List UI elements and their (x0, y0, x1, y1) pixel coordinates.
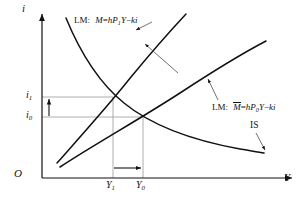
curve-label-lm-base-price: LM: M=hP0Y−ki (212, 103, 275, 113)
tick-label-Y1: Y1 (106, 180, 115, 192)
lm1-leader-upper (136, 22, 152, 30)
tick-label-i1-sub: 1 (29, 94, 32, 101)
tick-label-i1: i1 (26, 90, 32, 102)
tick-label-i0: i0 (26, 110, 32, 122)
guide-lines (42, 97, 143, 178)
curve-label-is: IS (250, 121, 258, 131)
curve-label-lm-high-price: LM: M=hP1Y−ki (74, 16, 137, 26)
tick-label-Y0: Y0 (136, 180, 145, 192)
lm0-leader (208, 79, 218, 100)
axis-label-Y: Y (284, 172, 290, 183)
lm1-eq-M: M (95, 15, 103, 25)
is-leader (256, 133, 265, 150)
lm0-separator: : (226, 102, 229, 112)
is-lm-figure: i Y O i1 i0 Y1 Y0 LM: M=hP1Y−ki LM: M=hP… (0, 0, 304, 206)
origin-label: O (14, 168, 22, 179)
tick-label-Y1-sub: 1 (112, 184, 115, 191)
annotation-arrows (49, 99, 141, 168)
leader-lines (136, 22, 265, 150)
lm0-name: LM (212, 102, 226, 112)
tick-label-Y0-sub: 0 (142, 184, 145, 191)
axes (42, 14, 292, 178)
axis-label-i: i (22, 3, 25, 14)
lm1-name: LM (74, 15, 88, 25)
lm1-leader-lower (145, 44, 178, 73)
lm1-eq-i: i (135, 15, 138, 25)
lm0-eq-i: i (273, 102, 276, 112)
tick-label-i0-sub: 0 (29, 114, 32, 121)
lm-curve-high-price (57, 14, 186, 163)
lm1-separator: : (88, 15, 91, 25)
lm0-eq-M-bar: M (233, 103, 241, 112)
